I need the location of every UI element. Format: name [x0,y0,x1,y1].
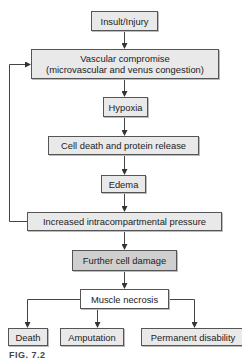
node-intracompartmental-pressure: Increased intracompartmental pressure [27,212,222,231]
node-label: Further cell damage [83,255,166,266]
node-insult-injury: Insult/Injury [91,11,158,31]
node-muscle-necrosis: Muscle necrosis [80,289,169,309]
node-hypoxia: Hypoxia [103,97,148,117]
node-label: Hypoxia [109,102,143,113]
node-label: Edema [109,179,139,190]
node-label: Amputation [68,332,115,343]
node-label: Permanent disability [151,332,235,343]
node-permanent-disability: Permanent disability [141,328,242,346]
node-label: Increased intracompartmental pressure [43,216,206,227]
figure-caption: FIG. 7.2 [9,350,46,358]
node-label: Death [15,332,40,343]
node-sublabel: (microvascular and venus congestion) [46,64,204,75]
node-vascular-compromise: Vascular compromise (microvascular and v… [31,49,219,79]
node-label: Cell death and protein release [61,140,186,151]
node-label: Insult/Injury [101,16,149,27]
node-label: Vascular compromise [80,53,169,64]
node-amputation: Amputation [60,328,124,346]
node-further-cell-damage: Further cell damage [72,250,177,271]
node-cell-death: Cell death and protein release [48,136,199,155]
node-label: Muscle necrosis [91,294,158,305]
node-edema: Edema [101,175,146,193]
node-death: Death [8,328,48,346]
